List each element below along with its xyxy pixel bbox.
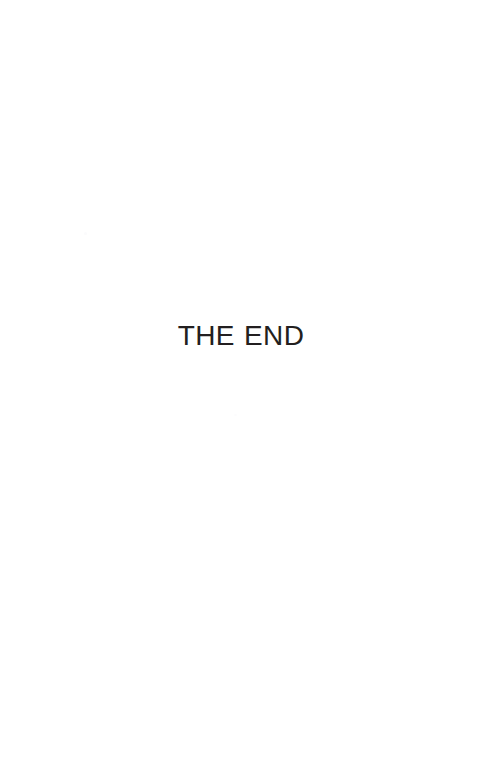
end-of-book-text: THE END <box>178 322 305 350</box>
paper-speck-artifact <box>84 232 87 235</box>
paper-speck-artifact <box>234 414 237 416</box>
end-of-book-line: THE END <box>0 322 489 350</box>
book-page: THE END <box>0 0 496 762</box>
